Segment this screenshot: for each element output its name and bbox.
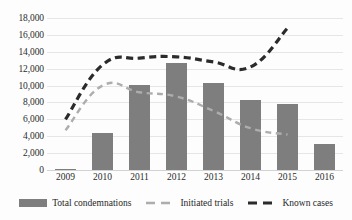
y-axis-tick-label: 16,000 (0, 30, 44, 40)
plot-area (47, 18, 343, 170)
y-axis-tick-label: 10,000 (0, 81, 44, 91)
x-axis-tick-label: 2009 (56, 172, 75, 182)
line-series-initiated-trials (66, 83, 288, 135)
x-axis: 20092010201120122013201420152016 (47, 172, 343, 188)
legend-item-label: Total condemnations (52, 198, 131, 208)
y-axis-tick-label: 12,000 (0, 64, 44, 74)
legend-dashed-line-swatch-icon (247, 198, 277, 208)
x-axis-tick-label: 2010 (93, 172, 112, 182)
gridline (47, 170, 343, 171)
y-axis-tick-label: 8,000 (0, 97, 44, 107)
line-series-known-cases (66, 28, 288, 119)
y-axis-tick-label: 18,000 (0, 13, 44, 23)
legend-item[interactable]: Total condemnations (19, 198, 131, 208)
legend-item[interactable]: Known cases (247, 198, 332, 208)
y-axis-tick-label: 2,000 (0, 148, 44, 158)
x-axis-tick-label: 2011 (130, 172, 149, 182)
legend-item-label: Initiated trials (180, 198, 233, 208)
legend-bar-swatch-icon (19, 199, 47, 207)
y-axis-tick-label: 14,000 (0, 47, 44, 57)
legend-dashed-line-swatch-icon (145, 198, 175, 208)
chart-legend: Total condemnationsInitiated trialsKnown… (0, 194, 352, 212)
legend-item-label: Known cases (282, 198, 332, 208)
x-axis-tick-label: 2014 (241, 172, 260, 182)
x-axis-tick-label: 2012 (167, 172, 186, 182)
y-axis-tick-label: 4,000 (0, 131, 44, 141)
y-axis-tick-label: 0 (0, 165, 44, 175)
x-axis-tick-label: 2013 (204, 172, 223, 182)
x-axis-tick-label: 2015 (278, 172, 297, 182)
line-series-layer (47, 18, 343, 170)
legend-item[interactable]: Initiated trials (145, 198, 233, 208)
chart-container: 02,0004,0006,0008,00010,00012,00014,0001… (0, 0, 352, 220)
y-axis-tick-label: 6,000 (0, 114, 44, 124)
y-axis: 02,0004,0006,0008,00010,00012,00014,0001… (0, 18, 44, 170)
x-axis-tick-label: 2016 (315, 172, 334, 182)
